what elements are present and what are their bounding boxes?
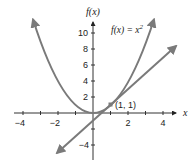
y-tick-label-6: 6 — [83, 60, 88, 70]
point-label: (1, 1) — [115, 100, 136, 110]
x-tick-label-neg4: −4 — [15, 118, 25, 128]
function-label-base: f(x) = x — [111, 25, 140, 36]
function-label-exponent: 2 — [140, 23, 144, 31]
x-tick-label-4: 4 — [160, 118, 165, 128]
y-tick-label-2: 2 — [83, 92, 88, 102]
y-tick-label-10: 10 — [78, 28, 88, 38]
x-tick-label-2: 2 — [125, 118, 130, 128]
y-tick-label-4: 4 — [83, 76, 88, 86]
point-marker — [109, 103, 113, 107]
y-axis-label: f(x) — [86, 6, 101, 18]
y-tick-label-neg4: −4 — [79, 140, 89, 150]
x-axis: −4 −2 2 4 x — [14, 107, 188, 128]
function-label: f(x) = x2 — [111, 23, 144, 36]
chart: −4 −2 2 4 x 10 8 6 4 2 −4 f(x) (1, 1) f(… — [0, 0, 190, 163]
y-axis: 10 8 6 4 2 −4 f(x) — [78, 6, 101, 160]
x-tick-label-neg2: −2 — [50, 118, 60, 128]
x-axis-label: x — [182, 107, 188, 118]
y-tick-label-8: 8 — [83, 44, 88, 54]
